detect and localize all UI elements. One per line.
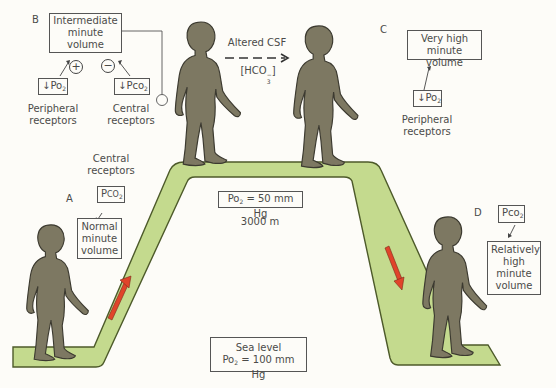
b-decreased-po2-box: ↓Po2 [38, 78, 68, 95]
d-pco2-text: Pco [502, 207, 520, 218]
panel-letter-b: B [32, 14, 39, 25]
c-receptor-line1: Peripheral [396, 114, 458, 126]
a-receptor-line1: Central [86, 153, 136, 165]
d-response-line2: high [491, 256, 537, 268]
b-pco2-sub: 2 [144, 85, 148, 92]
a-pco2-sub: 2 [119, 193, 123, 200]
alt-po2-text: Po [228, 193, 240, 204]
a-pco2-box: PCO2 [97, 186, 125, 203]
normal-minute-volume-box: Normal minute volume [77, 218, 122, 259]
b-left-receptor-line2: receptors [22, 115, 84, 127]
c-response-line2: minute volume [411, 45, 478, 69]
sea-level-box: Sea level Po2 = 100 mm Hg [210, 337, 307, 372]
a-co-text: CO [107, 190, 119, 199]
b-right-receptor-line2: receptors [106, 115, 156, 127]
b-response-line3: volume [53, 39, 118, 51]
d-response-line1: Relatively [491, 244, 537, 256]
b-response-line2: minute [53, 27, 118, 39]
d-pco2-box: Pco2 [498, 205, 525, 223]
panel-letter-a: A [66, 193, 73, 204]
d-response-line4: volume [491, 280, 537, 292]
a-response-line2: minute [81, 233, 118, 245]
receptor-circle-icon [157, 95, 168, 106]
altitude-po2-box: Po2 = 50 mm Hg [218, 191, 303, 208]
d-response-line3: minute [491, 268, 537, 280]
a-response-line1: Normal [81, 221, 118, 233]
b-po2-sub: 2 [62, 85, 66, 92]
csf-transition-arrow-icon [225, 54, 288, 62]
sea-level-line1: Sea level [214, 342, 303, 354]
b-right-receptor-line1: Central [106, 103, 156, 115]
b-response-line1: Intermediate [53, 15, 118, 27]
person-figure-d [423, 217, 487, 358]
intermediate-minute-volume-box: Intermediate minute volume [49, 13, 122, 53]
hco-text: [HCO [240, 65, 266, 76]
sea-level-po2: Po2 = 100 mm Hg [214, 354, 303, 381]
person-figure-c [294, 26, 358, 168]
very-high-minute-volume-box: Very high minute volume [407, 30, 482, 60]
b-po2-text: Po [50, 80, 62, 91]
b-pco2-text: Pco [126, 80, 144, 91]
b-peripheral-receptors-label: Peripheral receptors [22, 103, 84, 127]
a-central-receptors-label: Central receptors [86, 153, 136, 177]
relatively-high-minute-volume-box: Relatively high minute volume [487, 241, 541, 295]
panel-letter-d: D [474, 207, 482, 218]
altitude-height-label: 3000 m [230, 216, 290, 228]
hco-sub: 3 [267, 76, 271, 88]
c-peripheral-receptors-label: Peripheral receptors [396, 114, 458, 138]
sea-po2-value: = 100 mm Hg [238, 354, 294, 380]
negative-sign-icon: − [101, 59, 115, 73]
b-left-receptor-line1: Peripheral [22, 103, 84, 115]
c-response-line1: Very high [411, 33, 478, 45]
c-receptor-line2: receptors [396, 126, 458, 138]
d-pco2-sub: 2 [520, 212, 524, 219]
c-po2-text: Po [425, 92, 437, 103]
b-decreased-pco2-box: ↓Pco2 [114, 78, 150, 95]
altered-csf-label: Altered CSF [222, 37, 292, 49]
c-po2-sub: 2 [437, 97, 441, 104]
c-decreased-po2-box: ↓Po2 [413, 90, 442, 107]
a-response-line3: volume [81, 245, 118, 257]
panel-letter-c: C [380, 24, 387, 35]
hco-end: ] [272, 65, 276, 76]
a-receptor-line2: receptors [86, 165, 136, 177]
b-central-receptors-label: Central receptors [106, 103, 156, 127]
bicarbonate-label: [HCO−3] [236, 65, 280, 77]
sea-po2-text: Po [222, 354, 234, 365]
positive-sign-icon: + [69, 60, 83, 74]
